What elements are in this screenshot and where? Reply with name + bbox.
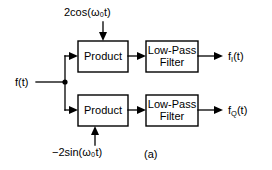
bottom-filter-to-output-wire	[198, 106, 223, 114]
diagram-canvas	[0, 0, 272, 170]
output-signal-quadrature-label: fQ(t)	[228, 104, 247, 118]
input-wire	[36, 79, 68, 84]
bottom-product-to-filter-wire	[128, 106, 146, 114]
product-block-bottom-label: Product	[78, 104, 128, 116]
lowpass-filter-block-bottom-label: Low-Pass Filter	[146, 98, 198, 122]
top-carrier-label: 2cos(ω₀t)	[64, 6, 111, 18]
output-quadrature-tail: (t)	[237, 104, 247, 116]
bottom-carrier-arrow	[91, 126, 99, 145]
top-filter-to-output-wire	[198, 52, 223, 60]
output-signal-inphase-label: fI(t)	[228, 50, 244, 64]
input-signal-label: f(t)	[15, 76, 28, 88]
bottom-carrier-label: −2sin(ω₀t)	[52, 146, 102, 158]
figure-caption: (a)	[144, 148, 157, 160]
lowpass-filter-block-top-label: Low-Pass Filter	[146, 44, 198, 68]
quadrature-demodulator-diagram: f(t) 2cos(ω₀t) −2sin(ω₀t) Product Low-Pa…	[0, 0, 272, 170]
top-carrier-arrow	[99, 22, 107, 41]
top-product-to-filter-wire	[128, 52, 146, 60]
product-block-top-label: Product	[78, 50, 128, 62]
output-inphase-tail: (t)	[233, 50, 243, 62]
